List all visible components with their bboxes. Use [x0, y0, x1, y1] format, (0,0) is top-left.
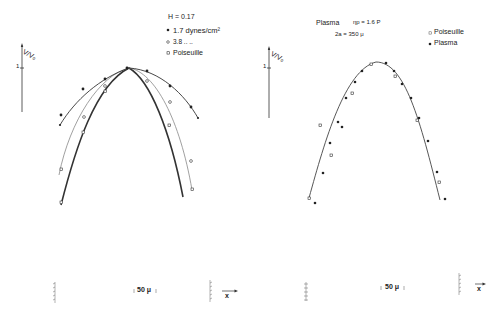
right-poiseuille-markers [308, 63, 440, 199]
right-y-axis-arrow-icon [268, 46, 270, 50]
legend-filled-circle-icon [167, 29, 170, 32]
left-3.8-markers [83, 80, 193, 163]
left-legend-title: H = 0.17 [168, 13, 195, 20]
right-scale-bar-label: 50 μ [385, 283, 399, 290]
right-y-tick-label: 1 [263, 63, 266, 69]
right-legend-entry-2: Plasma [434, 39, 457, 46]
left-legend-entry-3: Poiseuille [173, 49, 203, 56]
right-x-label: x [477, 285, 481, 292]
legend-filled-circle-icon [429, 43, 432, 46]
left-wall-right-icon [210, 280, 212, 302]
left-y-tick-label: 1 [16, 63, 19, 69]
left-scale-bar-label: 50 μ [137, 286, 151, 293]
legend-open-square-icon [167, 52, 169, 54]
left-legend [167, 29, 170, 54]
left-legend-entry-2: 3.8 .. .. [173, 38, 193, 45]
left-x-label: x [225, 292, 229, 299]
right-header-diameter: 2a = 350 μ [335, 31, 364, 37]
left-panel [20, 29, 238, 303]
figure [0, 0, 499, 318]
right-legend [429, 32, 432, 46]
left-1.7-curve [60, 68, 198, 125]
left-1.7-markers [59, 67, 199, 127]
left-legend-entry-1: 1.7 dynes/cm² [173, 26, 220, 35]
legend-open-square-icon [429, 32, 431, 34]
right-plasma-markers [314, 62, 447, 205]
right-header-fluid: Plasma [316, 19, 339, 26]
right-header-viscosity: ηp = 1.6 P [353, 19, 381, 25]
right-panel [267, 32, 486, 301]
left-poiseuille-curve [61, 68, 183, 205]
right-wall-left-icon [304, 282, 308, 301]
left-x-arrow-icon [235, 290, 239, 293]
left-wall-left-icon [53, 282, 55, 303]
right-wall-right-icon [459, 273, 461, 295]
left-poiseuille-markers [60, 90, 194, 204]
right-legend-entry-1: Poiseuille [434, 28, 464, 35]
left-y-axis-arrow-icon [21, 43, 23, 47]
right-x-arrow-icon [483, 283, 487, 286]
legend-open-circle-icon [167, 41, 170, 44]
right-fit-curve [309, 62, 440, 200]
